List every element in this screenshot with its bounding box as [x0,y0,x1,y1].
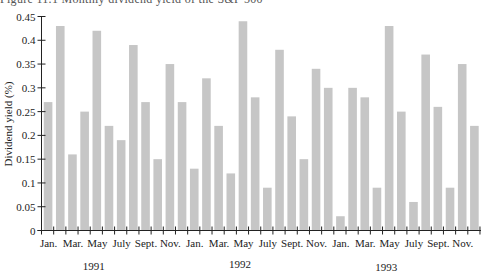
y-tick-label: 0.45 [16,11,36,23]
bar [214,126,223,231]
y-tick-label: 0.1 [22,177,36,189]
year-label: 1993 [375,261,398,272]
x-tick-label: Nov. [452,237,473,249]
bar [397,112,406,231]
bar [409,202,418,231]
year-label: 1992 [229,258,251,270]
x-tick-label: Nov. [160,237,181,249]
bar [446,188,455,231]
bar [129,45,138,230]
y-tick-label: 0.25 [16,106,36,118]
bar [93,31,102,231]
y-axis: 00.050.10.150.20.250.30.350.40.45 [16,11,45,237]
y-axis-label: Dividend yield (%) [2,81,15,166]
x-tick-label: May [380,237,401,249]
x-tick-label: May [87,237,108,249]
x-tick-label: Jan. [40,237,58,249]
bar [470,126,479,231]
bar [56,26,65,230]
bar [360,97,369,230]
bar [190,169,199,231]
bar [117,140,126,230]
x-tick-label: July [259,237,278,249]
x-tick-label: Mar. [63,237,84,249]
bar [348,88,357,231]
x-tick-label: Sept. [135,237,158,249]
year-label: 1991 [83,260,105,272]
bar [153,159,162,230]
bar [336,216,345,230]
y-tick-label: 0.05 [16,201,36,213]
bar [239,21,248,230]
bar [373,188,382,231]
bar [68,154,77,230]
x-tick-label: Jan. [332,237,350,249]
x-axis: Jan.Mar.MayJulySept.Nov.Jan.Mar.MayJulyS… [38,227,481,272]
x-tick-label: Jan. [186,237,204,249]
y-tick-label: 0.4 [22,34,36,46]
bar [385,26,394,230]
x-tick-label: Sept. [427,237,450,249]
bar [458,64,467,230]
bar [80,112,89,231]
y-tick-label: 0.2 [22,129,36,141]
bar [434,107,443,231]
y-tick-label: 0.35 [16,58,36,70]
x-tick-label: Sept. [281,237,304,249]
bar [44,102,53,230]
x-tick-label: Mar. [209,237,230,249]
bar [251,97,260,230]
bar [300,159,309,230]
x-tick-label: July [405,237,424,249]
bar [324,88,333,231]
bar [263,188,272,231]
bar [202,78,211,230]
bar [287,116,296,230]
x-tick-label: July [112,237,131,249]
bar [178,102,187,230]
bar [105,126,114,231]
bar [312,69,321,231]
x-tick-label: Nov. [306,237,327,249]
x-tick-label: Mar. [355,237,376,249]
bar [141,102,150,230]
x-tick-label: May [233,237,254,249]
y-tick-label: 0 [30,225,36,237]
y-tick-label: 0.15 [16,153,36,165]
y-tick-label: 0.3 [22,82,36,94]
bar [166,64,175,230]
bars-group [44,21,479,230]
bar-chart: 00.050.10.150.20.250.30.350.40.45 Jan.Ma… [0,0,481,272]
bar [421,55,430,231]
bar [226,173,235,230]
bar [275,50,284,231]
